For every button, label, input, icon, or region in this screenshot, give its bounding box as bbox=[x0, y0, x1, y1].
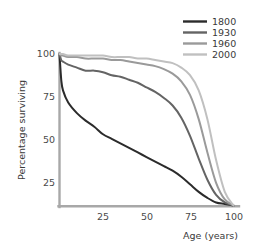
y-tick-labels: 100 75 50 25 bbox=[37, 48, 55, 188]
chart-axes bbox=[59, 53, 240, 207]
y-axis-title: Percentage surviving bbox=[16, 80, 27, 180]
legend-label-1930: 1930 bbox=[212, 27, 236, 38]
legend-label-1960: 1960 bbox=[212, 38, 236, 49]
series-line-2000 bbox=[60, 54, 234, 206]
legend-label-1800: 1800 bbox=[212, 16, 236, 27]
x-tick-label-100: 100 bbox=[225, 211, 243, 222]
x-tick-labels: 25 50 75 100 bbox=[97, 211, 243, 222]
chart-canvas: 100 75 50 25 25 50 75 100 Age (years) Pe… bbox=[0, 0, 253, 252]
x-tick-label-75: 75 bbox=[185, 211, 197, 222]
y-tick-label-75: 75 bbox=[43, 91, 55, 102]
y-tick-label-25: 25 bbox=[43, 177, 55, 188]
survivorship-chart: 100 75 50 25 25 50 75 100 Age (years) Pe… bbox=[0, 0, 253, 252]
series-line-1930 bbox=[60, 54, 234, 206]
y-tick-label-100: 100 bbox=[37, 48, 55, 59]
x-tick-label-50: 50 bbox=[141, 211, 153, 222]
x-tick-label-25: 25 bbox=[97, 211, 109, 222]
chart-series-group bbox=[60, 54, 234, 206]
y-tick-label-50: 50 bbox=[43, 134, 55, 145]
series-line-1960 bbox=[60, 54, 234, 206]
series-line-1800 bbox=[60, 54, 234, 206]
chart-legend: 1800 1930 1960 2000 bbox=[183, 16, 236, 60]
legend-label-2000: 2000 bbox=[212, 49, 236, 60]
x-axis-title: Age (years) bbox=[183, 230, 238, 241]
